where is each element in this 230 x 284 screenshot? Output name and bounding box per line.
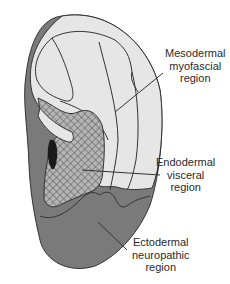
mesodermal-label-line1: Mesodermal	[165, 47, 226, 60]
mesodermal-label-line2: myofascial	[165, 60, 226, 73]
mesodermal-label: Mesodermal myofascial region	[165, 47, 226, 85]
endodermal-label-line2: visceral	[156, 169, 215, 182]
endodermal-label-line1: Endodermal	[156, 156, 215, 169]
ectodermal-label-line2: neuropathic	[132, 249, 190, 262]
endodermal-label-line3: region	[156, 181, 215, 194]
ectodermal-label: Ectodermal neuropathic region	[132, 236, 190, 274]
ear-diagram	[0, 0, 230, 284]
ectodermal-label-line3: region	[132, 261, 190, 274]
ectodermal-label-line1: Ectodermal	[132, 236, 190, 249]
mesodermal-label-line3: region	[165, 72, 226, 85]
endodermal-label: Endodermal visceral region	[156, 156, 215, 194]
